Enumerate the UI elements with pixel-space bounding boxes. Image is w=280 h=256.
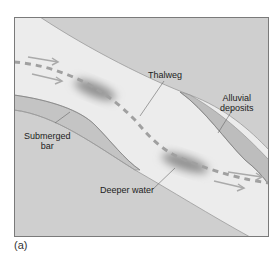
- submerged-label-line1: Submerged: [24, 131, 71, 141]
- river-channel-diagram: Thalweg Alluvial deposits Submerged bar …: [0, 0, 280, 256]
- figure-caption: (a): [14, 239, 27, 251]
- thalweg-label: Thalweg: [148, 70, 182, 80]
- submerged-label-line2: bar: [24, 141, 71, 151]
- alluvial-deposits-label: Alluvial deposits: [220, 93, 254, 113]
- alluvial-label-line2: deposits: [220, 103, 254, 113]
- diagram-canvas: [0, 0, 280, 256]
- alluvial-label-line1: Alluvial: [220, 93, 254, 103]
- submerged-bar-label: Submerged bar: [24, 131, 71, 151]
- deeper-water-label: Deeper water: [100, 185, 154, 195]
